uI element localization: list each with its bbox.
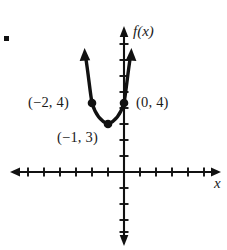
y-axis-bottom-arrowhead (120, 235, 129, 246)
curve-right-arrowhead (126, 48, 137, 61)
curve-left-arrowhead (80, 48, 91, 61)
data-point-neg1-3 (104, 120, 113, 129)
y-axis-top-arrowhead (120, 26, 129, 37)
graph-canvas (0, 0, 227, 250)
data-point-0-4 (120, 99, 129, 108)
x-axis-label: x (214, 176, 221, 191)
point-label-neg2-4: (−2, 4) (28, 95, 69, 110)
item-bullet-mark (4, 36, 9, 41)
data-point-neg2-4 (88, 99, 97, 108)
point-label-0-4: (0, 4) (136, 95, 169, 110)
point-label-neg1-3: (−1, 3) (57, 130, 98, 145)
x-axis-left-arrowhead (10, 168, 20, 177)
y-axis-label: f(x) (133, 24, 154, 39)
